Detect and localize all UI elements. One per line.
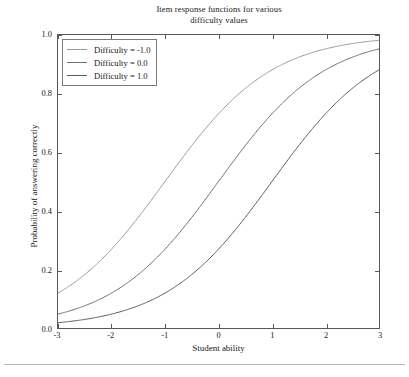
legend-item-2: Difficulty = 1.0 xyxy=(67,69,150,82)
legend-item-label: Difficulty = -1.0 xyxy=(94,45,150,55)
footer-divider xyxy=(4,364,405,365)
x-tick-mark-1 xyxy=(111,324,112,328)
curve-series-1 xyxy=(58,49,379,314)
x-tick-mark-5 xyxy=(327,324,328,328)
y-tick-mark-1 xyxy=(375,271,379,272)
chart-legend: Difficulty = -1.0Difficulty = 0.0Difficu… xyxy=(62,39,157,86)
y-tick-mark-3 xyxy=(375,153,379,154)
x-axis-label: Student ability xyxy=(57,343,380,353)
x-tick-mark-4 xyxy=(273,35,274,39)
chart-figure: Item response functions for various diff… xyxy=(0,0,409,377)
legend-line-swatch-icon xyxy=(67,49,87,50)
y-tick-label-0: 0.0 xyxy=(52,325,62,334)
y-tick-mark-4 xyxy=(375,94,379,95)
y-tick-label-2: 0.4 xyxy=(52,207,62,216)
chart-title: Item response functions for various diff… xyxy=(57,4,381,26)
y-tick-mark-2 xyxy=(375,212,379,213)
legend-item-label: Difficulty = 0.0 xyxy=(94,58,148,68)
y-tick-label-5: 1.0 xyxy=(52,30,62,39)
x-tick-mark-5 xyxy=(327,35,328,39)
x-tick-label-4: 1 xyxy=(270,331,274,340)
y-tick-label-3: 0.6 xyxy=(52,148,62,157)
y-axis-label: Probability of answering correctly xyxy=(29,56,39,316)
x-tick-label-3: 0 xyxy=(216,331,220,340)
x-tick-label-1: -2 xyxy=(107,331,114,340)
legend-line-swatch-icon xyxy=(67,75,87,76)
x-tick-mark-2 xyxy=(165,35,166,39)
x-tick-label-5: 2 xyxy=(324,331,328,340)
legend-line-swatch-icon xyxy=(67,62,87,63)
y-tick-label-4: 0.8 xyxy=(52,89,62,98)
legend-item-label: Difficulty = 1.0 xyxy=(94,71,148,81)
chart-title-line-2: difficulty values xyxy=(57,15,381,26)
y-tick-mark-5 xyxy=(375,35,379,36)
y-tick-label-1: 0.2 xyxy=(52,266,62,275)
legend-item-0: Difficulty = -1.0 xyxy=(67,43,150,56)
x-tick-mark-2 xyxy=(165,324,166,328)
x-tick-label-2: -1 xyxy=(161,331,168,340)
curve-series-2 xyxy=(58,70,379,323)
x-tick-label-6: 3 xyxy=(378,331,382,340)
x-tick-mark-3 xyxy=(219,35,220,39)
chart-title-line-1: Item response functions for various xyxy=(57,4,381,15)
legend-item-1: Difficulty = 0.0 xyxy=(67,56,150,69)
x-tick-mark-4 xyxy=(273,324,274,328)
x-tick-mark-3 xyxy=(219,324,220,328)
